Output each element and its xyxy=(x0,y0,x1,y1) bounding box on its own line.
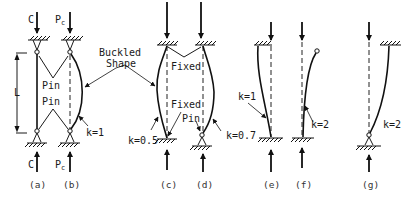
k-pointer-b xyxy=(79,116,88,126)
fixed-support-bottom-f-icon xyxy=(291,138,314,142)
load-label-bottom-b: Pc xyxy=(55,159,65,172)
case-c: k=0.5 xyxy=(128,2,178,170)
case-d: k=0.7 xyxy=(190,2,256,172)
case-a: C C xyxy=(14,12,50,172)
load-label-top-a: C xyxy=(28,14,34,25)
k-label-g: k=2 xyxy=(383,119,401,130)
k-pointer-c xyxy=(151,117,158,130)
fixed-support-top-c-icon xyxy=(157,41,178,45)
fixed-support-bottom-c-icon xyxy=(155,139,177,143)
column-buckling-diagram: C C xyxy=(0,0,414,203)
buckled-column-c xyxy=(157,46,167,138)
pin-label-bottom: Pin xyxy=(42,96,60,107)
k-label-e: k=1 xyxy=(238,91,256,102)
buckled-column-d xyxy=(203,46,214,133)
length-label: L xyxy=(14,87,20,98)
buckled-shape-callout: Buckled Shape xyxy=(85,47,155,87)
fixed-support-top-d-icon xyxy=(195,41,216,45)
load-label-top-b: Pc xyxy=(55,14,65,27)
case-e: k=1 xyxy=(238,22,283,172)
load-label-bottom-a: C xyxy=(28,159,34,170)
k-label-c: k=0.5 xyxy=(128,135,158,146)
pin-callouts: Pin Pin xyxy=(39,56,68,129)
k-label-f: k=2 xyxy=(311,119,329,130)
buckled-shape-label-line1: Buckled xyxy=(99,47,141,58)
case-captions: (a) (b) (c) (d) (e) (f) (g) xyxy=(29,179,379,190)
fixed-support-top-a-icon xyxy=(28,36,50,54)
k-pointer-d xyxy=(213,119,221,131)
caption-f: (f) xyxy=(295,179,312,190)
caption-d: (d) xyxy=(196,179,213,190)
caption-e: (e) xyxy=(263,179,280,190)
case-f: k=2 xyxy=(291,22,329,168)
k-label-d: k=0.7 xyxy=(226,130,256,141)
free-end-f-icon xyxy=(315,49,319,53)
caption-g: (g) xyxy=(362,179,379,190)
fixed-callouts: Fixed Fixed Pin xyxy=(168,47,201,136)
buckled-column-e xyxy=(258,46,271,137)
fixed-support-top-e-icon xyxy=(254,41,272,45)
pin-support-bottom-b-icon xyxy=(58,129,80,147)
fixed-label-top: Fixed xyxy=(171,61,201,72)
caption-a: (a) xyxy=(29,179,46,190)
pin-label-d: Pin xyxy=(182,113,200,124)
case-b: Pc Pc k=1 xyxy=(55,12,104,172)
pin-support-bottom-g-icon xyxy=(356,133,381,150)
pin-support-bottom-a-icon xyxy=(25,129,47,147)
pin-label-top: Pin xyxy=(42,80,60,91)
k-label-b: k=1 xyxy=(86,127,104,138)
caption-b: (b) xyxy=(63,179,80,190)
k-pointer-e xyxy=(248,103,266,118)
fixed-label-bottom: Fixed xyxy=(171,99,201,110)
fixed-support-top-b-icon xyxy=(61,36,83,54)
case-g: k=2 xyxy=(356,22,401,172)
fixed-support-top-g-icon xyxy=(380,41,401,45)
caption-c: (c) xyxy=(160,179,177,190)
pin-support-bottom-d-icon xyxy=(190,133,212,150)
fixed-support-bottom-e-icon xyxy=(258,138,283,142)
buckled-shape-label-line2: Shape xyxy=(106,58,136,69)
